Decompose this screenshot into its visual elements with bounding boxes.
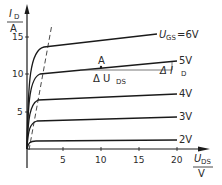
x-axis-label-subscript: DS bbox=[201, 158, 211, 166]
curve-label-4v: 4V bbox=[179, 88, 192, 99]
x-axis-arrow-icon bbox=[198, 147, 210, 152]
operating-point-a-marker bbox=[100, 66, 102, 68]
operating-point-a-label: A bbox=[98, 55, 105, 66]
saturation-boundary-dashed-line bbox=[29, 24, 52, 150]
delta-id-label: Δ I bbox=[159, 65, 173, 76]
y-axis-label-subscript: D bbox=[14, 13, 19, 21]
curve-label-5v: 5V bbox=[179, 55, 192, 66]
curve-label-6v: =6V bbox=[177, 29, 199, 40]
curve-label-3v: 3V bbox=[179, 111, 192, 122]
curve-label-ugs-subscript: GS bbox=[166, 34, 176, 42]
chart-container: I D A 15 10 5 5 10 15 20 U DS V U bbox=[0, 0, 222, 185]
fet-output-characteristics-plot: I D A 15 10 5 5 10 15 20 U DS V U bbox=[0, 0, 222, 185]
x-tick-label-15: 15 bbox=[133, 155, 144, 165]
delta-id-subscript: D bbox=[181, 70, 186, 78]
delta-uds-subscript: DS bbox=[116, 78, 126, 86]
x-tick-label-5: 5 bbox=[60, 155, 66, 165]
x-tick-label-20: 20 bbox=[171, 155, 183, 165]
delta-uds-label: Δ U bbox=[93, 73, 110, 84]
x-tick-label-10: 10 bbox=[95, 155, 107, 165]
curve-label-2v: 2V bbox=[179, 134, 192, 145]
y-tick-label-10: 10 bbox=[12, 69, 24, 79]
y-axis-arrow-icon bbox=[25, 4, 30, 14]
curve-ugs-2v bbox=[27, 140, 177, 149]
y-axis-label-symbol: I bbox=[9, 8, 12, 19]
curve-ugs-6v bbox=[27, 34, 157, 149]
curve-ugs-3v bbox=[27, 117, 177, 149]
x-axis-label-unit: V bbox=[198, 168, 205, 179]
y-tick-label-5: 5 bbox=[17, 107, 23, 117]
y-tick-label-15: 15 bbox=[12, 32, 23, 42]
